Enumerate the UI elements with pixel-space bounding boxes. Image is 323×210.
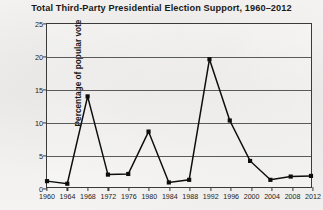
- x-tick-label-1996: 1996: [223, 193, 239, 201]
- x-tick-mark-2000: [251, 187, 252, 191]
- x-tick-mark-1992: [210, 187, 211, 191]
- data-point-2008: [289, 174, 293, 178]
- x-tick-mark-1976: [128, 187, 129, 191]
- data-point-1960: [45, 179, 49, 183]
- data-point-1972: [106, 173, 110, 177]
- y-tick-label-20: 20: [35, 53, 43, 62]
- x-tick-label-2004: 2004: [264, 193, 280, 201]
- x-tick-label-1988: 1988: [182, 193, 198, 201]
- x-tick-mark-1964: [67, 187, 68, 191]
- x-tick-mark-1996: [231, 187, 232, 191]
- x-tick-label-1976: 1976: [121, 193, 137, 201]
- data-point-1976: [126, 172, 130, 176]
- data-point-1984: [167, 180, 171, 184]
- series-polyline: [47, 59, 311, 184]
- plot-area: Percentage of popular vote 0510152025 19…: [46, 23, 312, 188]
- x-tick-mark-2008: [292, 187, 293, 191]
- x-tick-label-1980: 1980: [141, 193, 157, 201]
- data-point-1988: [187, 178, 191, 182]
- x-tick-mark-1960: [46, 187, 47, 191]
- chart-title: Total Third-Party Presidential Election …: [0, 3, 323, 13]
- data-point-1964: [65, 182, 69, 186]
- x-tick-mark-2004: [271, 187, 272, 191]
- x-tick-label-1960: 1960: [39, 193, 55, 201]
- series-markers: [45, 57, 313, 186]
- y-tick-label-5: 5: [39, 152, 43, 161]
- x-tick-mark-2012: [312, 187, 313, 191]
- data-series-line: [47, 24, 311, 187]
- y-tick-label-25: 25: [35, 20, 43, 29]
- y-tick-label-10: 10: [35, 119, 43, 128]
- data-point-1968: [86, 94, 90, 98]
- data-point-2012: [309, 174, 313, 178]
- x-tick-label-1984: 1984: [162, 193, 178, 201]
- data-point-2004: [268, 178, 272, 182]
- x-tick-mark-1988: [190, 187, 191, 191]
- x-tick-mark-1980: [149, 187, 150, 191]
- x-tick-label-1964: 1964: [60, 193, 76, 201]
- y-tick-label-15: 15: [35, 86, 43, 95]
- x-tick-label-1992: 1992: [203, 193, 219, 201]
- x-tick-mark-1968: [87, 187, 88, 191]
- chart-figure: Total Third-Party Presidential Election …: [0, 0, 323, 210]
- x-tick-label-2008: 2008: [285, 193, 301, 201]
- data-point-2000: [248, 159, 252, 163]
- x-tick-label-1972: 1972: [100, 193, 116, 201]
- x-tick-mark-1984: [169, 187, 170, 191]
- x-tick-label-1968: 1968: [80, 193, 96, 201]
- data-point-1992: [207, 57, 211, 61]
- x-tick-label-2000: 2000: [244, 193, 260, 201]
- x-tick-mark-1972: [108, 187, 109, 191]
- x-tick-label-2012: 2012: [305, 193, 321, 201]
- data-point-1980: [146, 130, 150, 134]
- data-point-1996: [228, 118, 232, 122]
